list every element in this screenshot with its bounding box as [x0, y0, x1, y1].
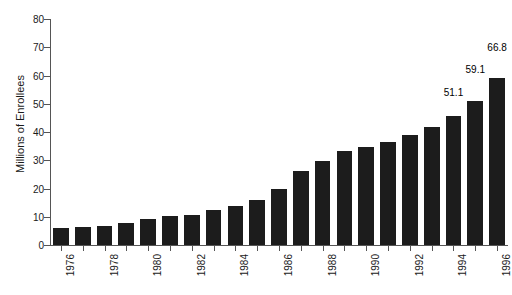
bar: [337, 151, 353, 245]
x-axis-tick: [323, 246, 324, 251]
x-axis-tick: [83, 246, 84, 251]
x-axis-tick: [170, 246, 171, 251]
x-axis-tick: [344, 246, 345, 251]
y-axis-tick: [44, 245, 50, 246]
x-axis-tick-label: 1988: [327, 254, 338, 276]
x-axis-tick: [105, 246, 106, 251]
x-axis-tick-label: 1978: [109, 254, 120, 276]
y-axis-tick-label: 70: [4, 42, 44, 53]
y-axis-tick-label: 0: [4, 240, 44, 251]
x-axis-tick-label: 1980: [152, 254, 163, 276]
x-axis-tick-label: 1990: [370, 254, 381, 276]
bar-chart: Millions of Enrollees 01020304050607080 …: [0, 0, 512, 295]
bar-value-label: 59.1: [466, 64, 485, 75]
bars-layer: [50, 18, 508, 245]
x-axis-tick: [257, 246, 258, 251]
x-axis-tick: [301, 246, 302, 251]
bar: [358, 147, 374, 245]
x-axis-tick-label: 1994: [457, 254, 468, 276]
bar: [249, 200, 265, 245]
bar: [293, 171, 309, 245]
x-axis-tick-label: 1986: [283, 254, 294, 276]
bar: [118, 223, 134, 245]
x-axis-tick-label: 1984: [239, 254, 250, 276]
x-axis-tick: [279, 246, 280, 251]
x-axis-tick: [366, 246, 367, 251]
x-axis-tick: [214, 246, 215, 251]
x-axis-tick-label: 1976: [65, 254, 76, 276]
bar: [97, 226, 113, 245]
bar: [446, 116, 462, 245]
bar: [75, 227, 91, 245]
bar: [206, 210, 222, 245]
y-axis-tick-label: 80: [4, 14, 44, 25]
x-axis-tick: [235, 246, 236, 251]
x-axis-tick: [388, 246, 389, 251]
bar-value-label: 51.1: [444, 87, 463, 98]
bar: [315, 161, 331, 245]
x-axis-tick: [497, 246, 498, 251]
x-axis-tick-label: 1992: [414, 254, 425, 276]
x-axis-tick: [475, 246, 476, 251]
bar: [380, 142, 396, 245]
bar: [271, 189, 287, 245]
bar: [467, 101, 483, 245]
bar: [402, 135, 418, 245]
x-axis-tick: [432, 246, 433, 251]
x-axis-tick: [410, 246, 411, 251]
x-axis-tick-label: 1982: [196, 254, 207, 276]
bar: [162, 216, 178, 245]
bar: [489, 78, 505, 245]
y-axis-tick-label: 20: [4, 183, 44, 194]
bar-value-label: 66.8: [487, 42, 506, 53]
y-axis-tick-label: 60: [4, 70, 44, 81]
y-axis-tick-label: 50: [4, 98, 44, 109]
x-axis-tick-label: 1996: [501, 254, 512, 276]
bar: [140, 219, 156, 245]
x-axis-tick: [453, 246, 454, 251]
x-axis-tick: [148, 246, 149, 251]
x-axis-tick: [61, 246, 62, 251]
x-axis-tick: [126, 246, 127, 251]
y-axis-tick-label: 10: [4, 211, 44, 222]
bar: [424, 127, 440, 245]
y-axis-tick-label: 30: [4, 155, 44, 166]
bar: [184, 215, 200, 246]
x-axis-tick: [192, 246, 193, 251]
y-axis-tick-label: 40: [4, 127, 44, 138]
bar: [228, 206, 244, 245]
bar: [53, 228, 69, 245]
